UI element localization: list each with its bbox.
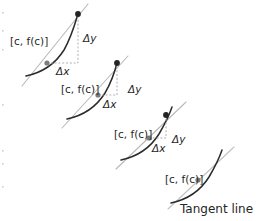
panel-2-point-label: [c, f(c)] <box>61 84 99 95</box>
panel-1-point-c <box>44 60 49 65</box>
figure-canvas: [c, f(c)] Δy Δx [c, f(c)] Δy Δx [c, f(c)… <box>0 0 259 221</box>
panel-1-delta-y-label: Δy <box>83 33 96 44</box>
panel-2-delta-y-label: Δy <box>128 84 141 95</box>
panel-2-delta-x-label: Δx <box>103 99 116 110</box>
panel-1-delta-x-label: Δx <box>56 66 69 77</box>
tangent-line-caption: Tangent line <box>180 203 253 215</box>
panel-1-point-secant <box>75 11 81 17</box>
panel-4-point-label: [c, f(c)] <box>165 174 203 185</box>
panel-3-point-secant <box>163 112 169 118</box>
figure-graphics <box>0 0 259 221</box>
panel-3-delta-x-label: Δx <box>152 143 165 154</box>
panel-3-delta-y-label: Δy <box>172 134 185 145</box>
panel-2-point-secant <box>114 60 120 66</box>
page-edge-artifacts <box>2 12 4 188</box>
panel-3-point-label: [c, f(c)] <box>114 129 152 140</box>
panel-1-point-label: [c, f(c)] <box>10 36 48 47</box>
